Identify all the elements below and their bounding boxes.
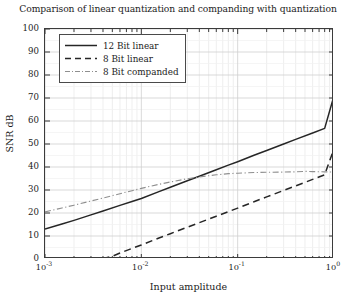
y-axis-label: SNR dB	[4, 104, 15, 164]
x-axis-tick-label: 10-2	[132, 263, 148, 271]
legend-label: 8 Bit linear	[103, 54, 153, 64]
x-axis-tick-label: 10-1	[228, 263, 244, 271]
y-axis-tick-label: 0	[5, 254, 39, 263]
legend-line-sample-solid	[64, 40, 98, 51]
y-axis-tick-label: 60	[5, 116, 39, 125]
data-series-group	[45, 96, 333, 258]
y-axis-tick-label: 20	[5, 208, 39, 217]
legend-label: 12 Bit linear	[103, 41, 159, 51]
x-axis-tick-label: 10-3	[36, 263, 52, 271]
y-axis-tick-label: 100	[5, 24, 39, 33]
series-line	[45, 96, 333, 229]
chart-title: Comparison of linear quantization and co…	[0, 3, 356, 14]
chart-figure: Comparison of linear quantization and co…	[0, 0, 356, 303]
y-axis-tick-label: 10	[5, 231, 39, 240]
legend-label: 8 Bit companded	[103, 67, 179, 77]
plot-area: 12 Bit linear 8 Bit linear 8 Bit compand…	[44, 28, 333, 258]
y-axis-tick-label: 30	[5, 185, 39, 194]
legend-item: 8 Bit linear	[64, 52, 179, 65]
y-axis-tick-label: 40	[5, 162, 39, 171]
y-axis-tick-label: 50	[5, 139, 39, 148]
series-line	[45, 171, 333, 211]
legend-line-sample-dashed	[64, 53, 98, 64]
legend-item: 12 Bit linear	[64, 39, 179, 52]
x-axis-tick-label: 100	[326, 263, 340, 271]
series-line	[45, 149, 333, 258]
y-axis-tick-label: 80	[5, 70, 39, 79]
legend-line-sample-dashdot	[64, 66, 98, 77]
x-axis-label: Input amplitude	[44, 281, 333, 292]
legend-item: 8 Bit companded	[64, 65, 179, 78]
y-axis-tick-label: 70	[5, 93, 39, 102]
chart-legend: 12 Bit linear 8 Bit linear 8 Bit compand…	[59, 34, 186, 83]
y-axis-tick-label: 90	[5, 47, 39, 56]
